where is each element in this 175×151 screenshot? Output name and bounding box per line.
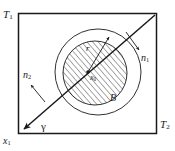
label-t1: T1	[3, 9, 13, 21]
label-center-point: x0	[90, 74, 96, 82]
label-n2: n2	[23, 70, 31, 81]
label-gamma: γ	[41, 121, 46, 132]
label-n1: n1	[141, 53, 149, 64]
figure-container: T1 T2 x1 n1 n2 γ r x0 B	[0, 0, 175, 151]
normal-arrow-n2	[31, 85, 45, 102]
label-radius: r	[86, 44, 90, 53]
label-hatched-region: B	[110, 93, 116, 103]
label-x1: x1	[3, 136, 11, 147]
label-t2: T2	[160, 119, 170, 131]
